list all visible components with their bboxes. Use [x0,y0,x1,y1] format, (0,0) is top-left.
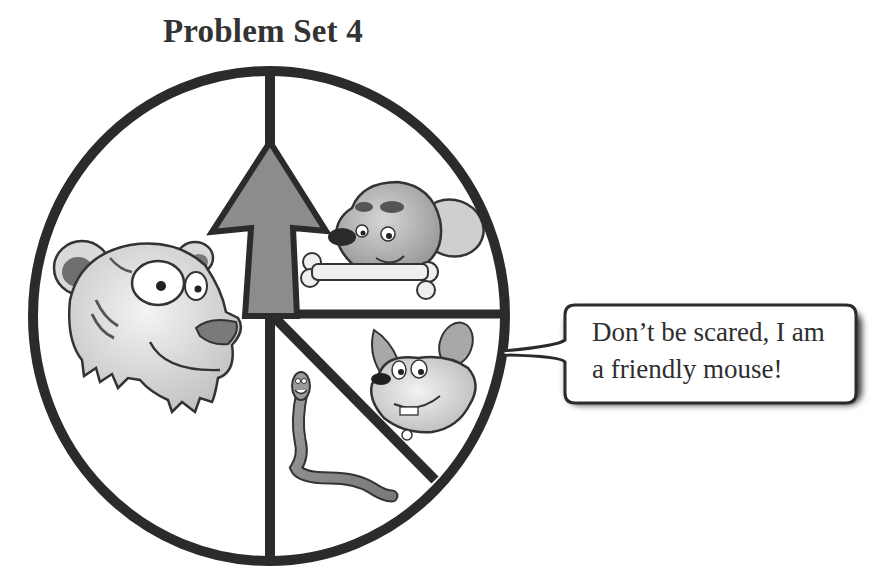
dog-illustration [301,182,492,299]
speech-bubble-text: Don’t be scared, I am a friendly mouse! [592,314,852,388]
speech-line-1: Don’t be scared, I am [592,314,852,351]
mouse-illustration [371,318,479,440]
spinner-diagram [0,0,888,576]
speech-line-2: a friendly mouse! [592,351,852,388]
arrow-pointer [212,142,326,316]
tiger-illustration [54,241,241,412]
